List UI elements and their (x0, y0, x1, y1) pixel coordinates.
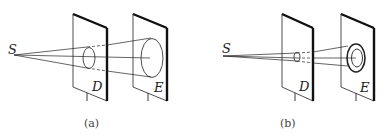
source-label-b: S (222, 41, 231, 56)
screen-e-label-b: E (359, 80, 370, 95)
caption-a: (a) (84, 117, 99, 130)
caption-b: (b) (280, 117, 296, 130)
screen-e-label-a: E (153, 80, 164, 95)
diffraction-diagram: S D E (a) (0, 0, 386, 136)
panel-a: S D E (a) (8, 14, 167, 130)
screen-d-label-b: D (298, 79, 310, 94)
source-label-a: S (8, 42, 17, 57)
screen-d-label-a: D (91, 79, 103, 94)
panel-b: S D E (b) (222, 14, 374, 130)
